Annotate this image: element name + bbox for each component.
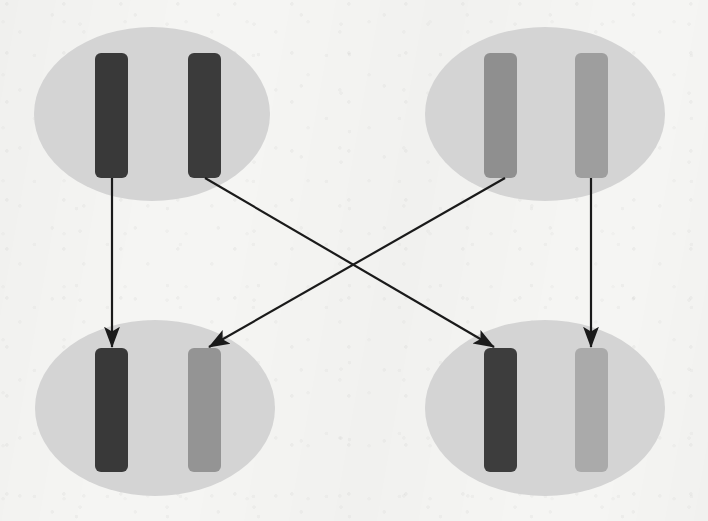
arrow-tr1-to-bl2: [209, 178, 505, 347]
bar-tr-1: [484, 53, 517, 178]
bar-bl-1: [95, 348, 128, 472]
bar-br-1: [484, 348, 517, 472]
bar-tr-2: [575, 53, 608, 178]
group-top-right: [425, 27, 665, 201]
arrow-tl2-to-br1: [205, 178, 494, 347]
group-top-left: [34, 27, 270, 201]
bar-br-2: [575, 348, 608, 472]
bar-tl-1: [95, 53, 128, 178]
diagram-canvas: [0, 0, 708, 521]
group-bottom-left: [35, 320, 275, 496]
bar-tl-2: [188, 53, 221, 178]
arrows-layer: [112, 178, 591, 347]
group-bottom-right: [425, 320, 665, 496]
diagram-svg: [0, 0, 708, 521]
bar-bl-2: [188, 348, 221, 472]
